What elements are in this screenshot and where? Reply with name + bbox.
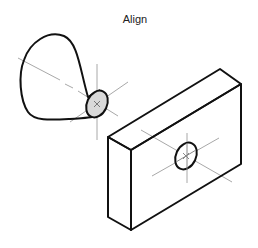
cone-centerlines [18, 58, 128, 140]
diagram-canvas: Align [0, 0, 258, 248]
cone-body [21, 34, 92, 119]
align-illustration [0, 0, 258, 248]
